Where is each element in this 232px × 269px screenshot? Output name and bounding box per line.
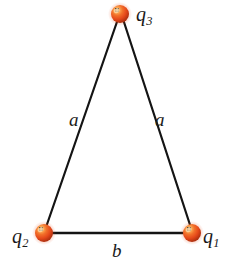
edge-left-a: [44, 16, 119, 233]
charge-triangle-diagram: q3 q2 q1 a a b: [0, 0, 232, 269]
side-label-a-left: a: [69, 110, 79, 129]
charge-label-q2: q2: [12, 226, 28, 246]
side-label-a-right: a: [155, 110, 165, 129]
charge-sphere-q1: [180, 221, 204, 245]
triangle-edges: [44, 16, 192, 233]
charge-sphere-q3: [108, 2, 132, 26]
charge-label-q3: q3: [136, 4, 152, 24]
diagram-canvas: [0, 0, 232, 269]
side-label-b: b: [112, 241, 122, 260]
charge-sphere-q2: [32, 221, 56, 245]
charge-label-q1: q1: [203, 226, 219, 246]
